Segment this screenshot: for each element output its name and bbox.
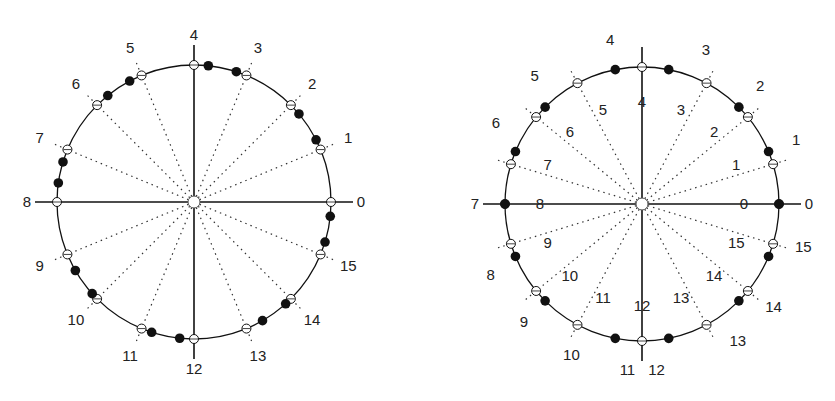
dotted-ray	[645, 209, 713, 337]
inner-label: 13	[673, 289, 690, 306]
outer-label: 4	[606, 31, 614, 48]
outer-label: 11	[122, 347, 138, 364]
outer-label: 4	[190, 26, 198, 43]
filled-marker	[103, 91, 113, 101]
dotted-ray	[645, 71, 713, 199]
filled-marker	[232, 67, 242, 77]
filled-marker	[764, 252, 774, 262]
outer-label: 7	[36, 129, 44, 146]
open-marker	[137, 71, 146, 80]
open-marker	[769, 160, 778, 169]
open-marker	[573, 79, 582, 88]
circle-diagram-1: 0123456789101112131415012345678910111213…	[471, 31, 813, 378]
open-marker	[638, 63, 647, 72]
dotted-ray	[525, 108, 637, 200]
filled-marker	[54, 178, 64, 188]
open-marker	[743, 113, 752, 122]
inner-label: 5	[599, 101, 607, 118]
filled-marker	[511, 252, 521, 262]
dotted-ray	[648, 206, 787, 248]
outer-label: 1	[344, 129, 352, 146]
filled-marker	[320, 237, 330, 247]
open-marker	[190, 335, 199, 344]
inner-label: 10	[562, 267, 579, 284]
outer-label: 5	[530, 67, 538, 84]
dotted-ray	[200, 204, 334, 259]
open-marker	[532, 286, 541, 295]
open-marker	[506, 239, 515, 248]
outer-label: 15	[795, 238, 812, 255]
outer-label: 7	[471, 195, 479, 212]
outer-label: 2	[308, 75, 316, 92]
outer-label: 15	[340, 257, 357, 274]
inner-label: 8	[536, 195, 544, 212]
filled-marker	[664, 65, 674, 75]
filled-marker	[147, 327, 157, 337]
origin-marker	[188, 196, 200, 208]
dotted-ray	[198, 206, 301, 309]
filled-marker	[58, 157, 68, 167]
open-marker	[63, 145, 72, 154]
open-marker	[573, 320, 582, 329]
circle-diagram-0: 0123456789101112131415	[23, 26, 365, 377]
open-marker	[702, 320, 711, 329]
outer-label: 10	[563, 346, 580, 363]
filled-marker	[540, 296, 550, 306]
filled-marker	[175, 333, 185, 343]
outer-label: 0	[357, 193, 365, 210]
filled-marker	[540, 102, 550, 112]
inner-label: 7	[544, 156, 552, 173]
dotted-ray	[196, 62, 251, 196]
filled-marker	[87, 289, 97, 299]
circle-diagrams: 0123456789101112131415012345678910111213…	[0, 0, 835, 401]
outer-label: 11	[620, 361, 636, 378]
outer-label: 5	[126, 39, 134, 56]
outer-label: 1	[792, 131, 800, 148]
inner-label: 0	[740, 195, 748, 212]
dotted-ray	[87, 95, 190, 198]
outer-label: 8	[23, 193, 31, 210]
open-marker	[286, 101, 295, 110]
inner-label: 4	[638, 93, 646, 110]
open-marker	[532, 113, 541, 122]
dotted-ray	[54, 144, 188, 199]
filled-marker	[511, 147, 521, 157]
filled-marker	[734, 296, 744, 306]
open-marker	[242, 71, 251, 80]
inner-label: 15	[728, 234, 745, 251]
dotted-ray	[54, 204, 188, 259]
outer-label: 13	[729, 332, 746, 349]
outer-label: 3	[254, 39, 262, 56]
open-marker	[93, 101, 102, 110]
outer-label: 12	[648, 361, 665, 378]
filled-marker	[204, 61, 214, 71]
outer-label: 8	[486, 266, 494, 283]
filled-marker	[610, 65, 620, 75]
inner-label: 11	[595, 289, 611, 306]
filled-marker	[125, 76, 135, 86]
open-marker	[769, 239, 778, 248]
filled-marker	[610, 334, 620, 344]
outer-label: 2	[756, 77, 764, 94]
dotted-ray	[136, 208, 191, 342]
dotted-ray	[200, 144, 334, 199]
dotted-ray	[525, 208, 637, 300]
inner-label: 2	[710, 123, 718, 140]
open-marker	[506, 160, 515, 169]
dotted-ray	[196, 208, 251, 342]
outer-label: 6	[492, 114, 500, 131]
inner-label: 6	[566, 123, 574, 140]
outer-label: 9	[36, 257, 44, 274]
filled-marker	[774, 199, 784, 209]
open-marker	[702, 79, 711, 88]
outer-label: 6	[72, 75, 80, 92]
filled-marker	[311, 135, 321, 145]
origin-marker	[636, 198, 648, 210]
open-marker	[316, 145, 325, 154]
filled-marker	[281, 299, 291, 309]
filled-marker	[500, 199, 510, 209]
dotted-ray	[571, 209, 639, 337]
dotted-ray	[498, 206, 637, 248]
filled-marker	[764, 147, 774, 157]
dotted-ray	[647, 208, 759, 300]
